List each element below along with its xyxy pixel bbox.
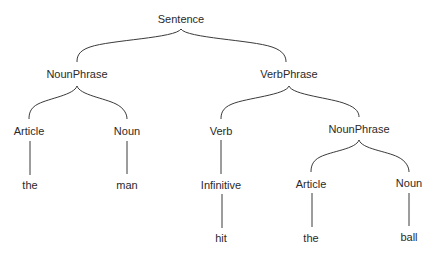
edge-nounphrase-noun	[77, 86, 127, 119]
node-article-2: Article	[296, 179, 327, 190]
node-noun-2: Noun	[396, 178, 422, 189]
node-noun: Noun	[114, 126, 140, 137]
edge-verbphrase-nounphrase	[289, 86, 359, 117]
edge-nounphrase-article	[29, 86, 77, 119]
leaf-the: the	[22, 180, 37, 191]
edge-nounphrase2-noun	[359, 140, 409, 172]
leaf-man: man	[116, 180, 137, 191]
leaf-the-2: the	[303, 233, 318, 244]
edge-nounphrase2-article	[311, 140, 359, 172]
node-verbphrase: VerbPhrase	[260, 69, 317, 80]
node-verb: Verb	[210, 126, 233, 137]
node-nounphrase: NounPhrase	[46, 69, 107, 80]
edge-verbphrase-verb	[221, 86, 289, 119]
edge-sentence-nounphrase	[77, 29, 181, 62]
node-nounphrase-2: NounPhrase	[328, 124, 389, 135]
leaf-ball: ball	[400, 232, 417, 243]
node-infinitive: Infinitive	[201, 180, 241, 191]
node-article: Article	[14, 126, 45, 137]
node-sentence: Sentence	[158, 14, 204, 25]
edge-sentence-verbphrase	[181, 29, 286, 62]
leaf-hit: hit	[215, 233, 227, 244]
